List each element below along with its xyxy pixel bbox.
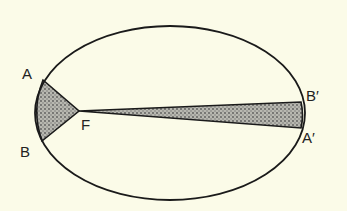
sector-far-from-focus <box>79 102 303 128</box>
label-A-prime: A′ <box>302 129 315 146</box>
label-B: B <box>20 143 30 160</box>
sector-near-focus <box>37 80 79 141</box>
label-B-prime: B′ <box>306 87 319 104</box>
label-A: A <box>22 65 32 82</box>
ellipse-diagram: A B F B′ A′ <box>0 0 347 211</box>
label-F: F <box>81 116 90 133</box>
